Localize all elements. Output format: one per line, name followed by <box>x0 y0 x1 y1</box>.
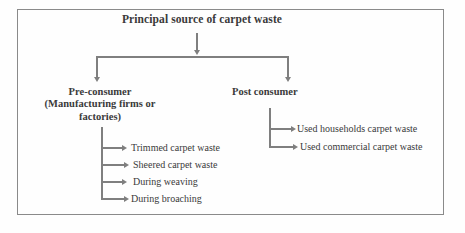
leaf-item-used-commercial-carpet-waste: Used commercial carpet waste <box>300 142 422 152</box>
pre-consumer-trunk-line <box>101 127 103 199</box>
post-consumer-leaf-connector-1 <box>269 128 291 130</box>
branch-node-pre-consumer: Pre-consumer (Manufacturing firms or fac… <box>16 86 184 123</box>
diagram-canvas: Principal source of carpet waste Pre-con… <box>0 0 465 233</box>
root-stem-arrowhead <box>194 50 200 55</box>
pre-consumer-leaf-connector-1 <box>101 147 122 149</box>
post-consumer-leaf-connector-2 <box>269 146 293 148</box>
branch-left-drop-arrowhead <box>94 77 100 82</box>
branch-right-drop-line <box>287 56 289 78</box>
leaf-item-during-broaching: During broaching <box>131 194 202 204</box>
branch-node-post-consumer: Post consumer <box>232 86 352 98</box>
leaf-item-used-households-carpet-waste: Used households carpet waste <box>297 124 417 134</box>
branch-left-drop-line <box>96 56 98 78</box>
pre-consumer-leaf-arrowhead-3 <box>122 179 127 185</box>
branch-right-drop-arrowhead <box>285 77 291 82</box>
leaf-item-trimmed-carpet-waste: Trimmed carpet waste <box>131 143 220 153</box>
pre-consumer-leaf-arrowhead-1 <box>122 145 127 151</box>
root-stem-line <box>196 33 198 51</box>
pre-consumer-leaf-connector-4 <box>101 198 124 200</box>
root-node-title: Principal source of carpet waste <box>107 13 297 27</box>
split-bar-line <box>96 56 289 58</box>
post-consumer-leaf-arrowhead-2 <box>293 144 298 150</box>
pre-consumer-leaf-connector-2 <box>101 164 124 166</box>
leaf-item-sheered-carpet-waste: Sheered carpet waste <box>133 160 217 170</box>
pre-consumer-leaf-arrowhead-2 <box>124 162 129 168</box>
post-consumer-leaf-arrowhead-1 <box>291 126 296 132</box>
pre-consumer-leaf-arrowhead-4 <box>124 196 129 202</box>
leaf-item-during-weaving: During weaving <box>133 177 198 187</box>
pre-consumer-leaf-connector-3 <box>101 181 122 183</box>
